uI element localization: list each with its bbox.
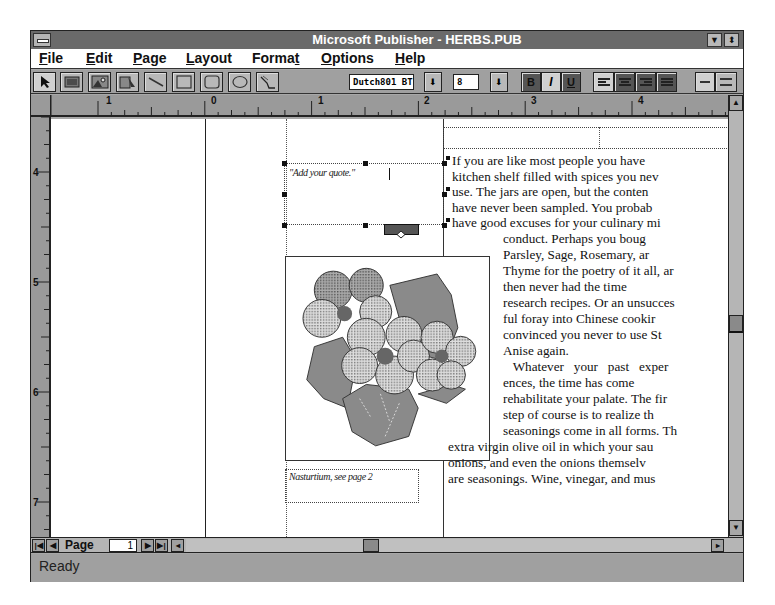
justify-icon — [660, 77, 674, 87]
body-text-line[interactable]: ful foray into Chinese cookir — [503, 311, 655, 327]
quote-placeholder-text[interactable]: "Add your quote." — [289, 167, 355, 178]
selection-handle[interactable] — [442, 161, 447, 166]
menu-options[interactable]: Options — [321, 50, 374, 66]
menu-help[interactable]: Help — [395, 50, 425, 66]
body-text-line[interactable]: extra virgin olive oil in which your sau — [448, 439, 653, 455]
body-text-line[interactable]: rehabilitate your palate. The fir — [503, 391, 667, 407]
italic-button[interactable]: I — [541, 72, 561, 92]
font-size-dropdown[interactable]: ⬇ — [490, 72, 508, 92]
body-text-line[interactable]: Anise again. — [503, 343, 569, 359]
window-title: Microsoft Publisher - HERBS.PUB — [31, 32, 743, 47]
pointer-tool[interactable] — [33, 72, 56, 92]
status-text: Ready — [39, 558, 79, 574]
menu-format[interactable]: Format — [252, 50, 299, 66]
publisher-window: Microsoft Publisher - HERBS.PUB ▼ ⬍ File… — [30, 30, 744, 582]
single-space-button[interactable] — [695, 72, 715, 92]
crop-icon — [259, 75, 277, 89]
selection-handle[interactable] — [282, 223, 287, 228]
right-arrow-icon: ▸ — [716, 541, 720, 550]
underline-button[interactable]: U — [561, 72, 581, 92]
scroll-left-button[interactable]: ◂ — [171, 539, 184, 552]
justify-button[interactable] — [656, 72, 677, 92]
body-text-line[interactable]: research recipes. Or an unsucces — [503, 295, 675, 311]
body-text-line[interactable]: have never been sampled. You probab — [452, 200, 652, 216]
caption-text[interactable]: Nasturtium, see page 2 — [289, 471, 372, 482]
scroll-right-button[interactable]: ▸ — [711, 539, 724, 552]
body-text-line[interactable]: kitchen shelf filled with spices you nev — [452, 169, 659, 185]
quote-frame[interactable]: "Add your quote." — [284, 163, 444, 225]
selection-handle[interactable] — [442, 223, 447, 228]
caption-frame[interactable]: Nasturtium, see page 2 — [285, 469, 419, 503]
bold-button[interactable]: B — [521, 72, 541, 92]
selection-handle[interactable] — [363, 161, 368, 166]
body-text-line[interactable]: convinced you never to use St — [503, 327, 662, 343]
picture-frame-tool[interactable] — [88, 72, 111, 92]
selection-handle[interactable] — [282, 161, 287, 166]
previous-page-button[interactable]: ◀ — [46, 539, 59, 552]
horizontal-scroll-thumb[interactable] — [363, 539, 379, 552]
wordart-tool[interactable] — [116, 72, 139, 92]
title-bar[interactable]: Microsoft Publisher - HERBS.PUB ▼ ⬍ — [31, 31, 743, 49]
font-name-field[interactable]: Dutch801 BT — [349, 74, 414, 90]
menu-file[interactable]: File — [39, 50, 63, 66]
horizontal-scrollbar[interactable] — [186, 539, 711, 552]
scroll-up-button[interactable]: ▲ — [729, 95, 743, 111]
restore-button[interactable]: ⬍ — [724, 33, 739, 47]
vertical-scrollbar[interactable]: ▲ ▼ — [728, 95, 743, 537]
font-name-dropdown[interactable]: ⬇ — [424, 72, 442, 92]
crop-tool[interactable] — [256, 72, 279, 92]
selection-handle[interactable] — [282, 192, 287, 197]
box-tool[interactable] — [172, 72, 195, 92]
horizontal-ruler[interactable]: 1 0 1 2 3 4 — [51, 95, 731, 117]
double-space-button[interactable] — [715, 72, 737, 92]
selection-handle[interactable] — [363, 223, 368, 228]
menu-page[interactable]: Page — [133, 50, 166, 66]
vertical-ruler[interactable]: 4 5 6 7 — [31, 117, 51, 537]
menu-edit[interactable]: Edit — [86, 50, 112, 66]
font-size-field[interactable]: 8 — [453, 74, 479, 90]
body-text-line[interactable]: step of course is to realize th — [503, 407, 654, 423]
connect-frames-button[interactable] — [384, 224, 419, 235]
ruler-corner[interactable] — [31, 95, 51, 117]
body-text-line[interactable]: onions, and even the onions themselv — [448, 455, 646, 471]
body-text-line[interactable]: conduct. Perhaps you boug — [503, 231, 646, 247]
minimize-icon: ▼ — [710, 35, 719, 45]
dropdown-arrow-icon: ⬇ — [429, 77, 437, 87]
frame-marker — [446, 187, 450, 191]
minimize-button[interactable]: ▼ — [707, 33, 722, 47]
header-guide — [599, 127, 600, 149]
status-bar: Ready — [31, 554, 743, 582]
first-page-button[interactable]: |◀ — [32, 539, 45, 552]
align-center-button[interactable] — [614, 72, 635, 92]
line-tool[interactable] — [144, 72, 167, 92]
text-frame-tool[interactable] — [60, 72, 83, 92]
vertical-scroll-thumb[interactable] — [729, 315, 743, 333]
next-page-button[interactable]: ▶ — [141, 539, 154, 552]
document-canvas[interactable]: "Add your quote." If you are like most p… — [51, 119, 731, 537]
body-text-line[interactable]: Thyme for the poetry of it all, ar — [503, 263, 674, 279]
align-right-button[interactable] — [635, 72, 656, 92]
body-text-line[interactable]: seasonings come in all forms. Th — [503, 423, 677, 439]
text-cursor — [389, 168, 390, 180]
body-text-line[interactable]: use. The jars are open, but the conten — [452, 184, 648, 200]
body-text-line[interactable]: ences, the time has come — [503, 375, 634, 391]
scroll-down-button[interactable]: ▼ — [729, 520, 743, 536]
body-text-line[interactable]: have good excuses for your culinary mi — [452, 215, 661, 231]
align-left-icon — [597, 77, 611, 87]
last-page-button[interactable]: ▶| — [155, 539, 168, 552]
body-text-line[interactable]: then never had the time — [503, 279, 627, 295]
body-text-line[interactable]: are seasonings. Wine, vinegar, and mus — [448, 471, 655, 487]
body-text-line[interactable]: If you are like most people you have — [452, 153, 645, 169]
selection-handle[interactable] — [442, 192, 447, 197]
align-left-button[interactable] — [593, 72, 614, 92]
toolbar: Dutch801 BT ⬇ 8 ⬇ B I U — [31, 70, 743, 94]
oval-tool[interactable] — [228, 72, 251, 92]
body-text-line[interactable]: Parsley, Sage, Rosemary, ar — [503, 247, 649, 263]
menu-layout[interactable]: Layout — [186, 50, 232, 66]
rounded-box-tool[interactable] — [200, 72, 223, 92]
nasturtium-picture[interactable] — [285, 256, 490, 461]
header-frame[interactable] — [443, 127, 731, 149]
body-text-line[interactable]: Whatever your past exper — [503, 359, 668, 375]
page-number-field[interactable]: 1 — [109, 539, 137, 552]
frame-marker — [446, 156, 450, 160]
